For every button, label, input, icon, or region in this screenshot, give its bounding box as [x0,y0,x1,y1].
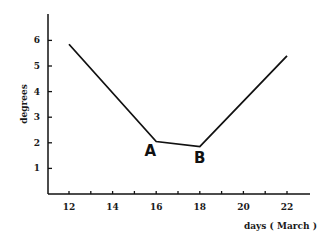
point-annotations: AB [144,142,205,167]
y-tick-label: 5 [34,61,40,71]
x-tick-label: 16 [150,202,163,212]
x-axis-label: days ( March ) [244,221,317,231]
y-tick-label: 2 [34,138,40,148]
y-tick-label: 1 [34,163,40,173]
x-tick-label: 22 [281,202,294,212]
x-tick-label: 20 [237,202,250,212]
x-tick-label: 12 [63,202,76,212]
y-ticks: 123456 [34,35,52,173]
x-tick-label: 14 [106,202,119,212]
axes [48,14,310,194]
point-label-a: A [144,142,156,160]
y-axis-label: degrees [19,84,29,124]
y-tick-label: 3 [34,112,40,122]
series-line [69,44,287,146]
y-tick-label: 6 [34,35,40,45]
point-label-b: B [194,149,205,167]
line-chart: 121416182022 123456 AB degrees days ( Ma… [0,0,326,241]
y-tick-label: 4 [34,87,40,97]
x-tick-label: 18 [194,202,207,212]
